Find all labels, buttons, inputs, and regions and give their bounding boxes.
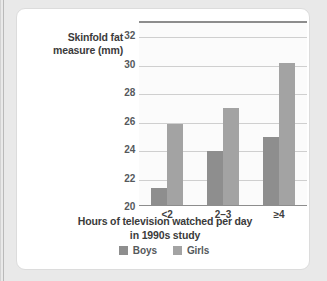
page-edge-rule (0, 0, 1, 281)
chart-legend: BoysGirls (17, 245, 311, 256)
bar-group (263, 23, 295, 205)
y-tick-label: 30 (124, 58, 135, 69)
legend-label-boys: Boys (133, 245, 157, 256)
figure-card: Skinfold fat measure (mm) 20222426283032… (16, 8, 310, 270)
x-axis-title-line1: Hours of television watched per day (37, 214, 293, 228)
bar-boys-2 (207, 151, 223, 205)
bar-girls-2 (223, 108, 239, 205)
legend-label-girls: Girls (187, 245, 209, 256)
y-tick-label: 24 (124, 144, 135, 155)
legend-swatch-boys (119, 246, 128, 255)
legend-item-girls: Girls (173, 245, 209, 256)
plot-wrapper: 20222426283032 <22–3≥4 (121, 21, 307, 206)
y-tick-label: 28 (124, 87, 135, 98)
y-axis-title-line2: measure (mm) (27, 44, 123, 57)
bar-group (207, 23, 239, 205)
y-tick-label: 22 (124, 172, 135, 183)
y-tick-label: 20 (124, 201, 135, 212)
bar-boys-1 (151, 188, 167, 205)
legend-swatch-girls (173, 246, 182, 255)
x-axis-title: Hours of television watched per day in 1… (37, 214, 293, 242)
bar-girls-3 (279, 63, 295, 205)
legend-item-boys: Boys (119, 245, 157, 256)
page-margin-rule (3, 0, 4, 281)
bar-girls-1 (167, 124, 183, 205)
bar-chart-figure: Skinfold fat measure (mm) 20222426283032… (17, 9, 311, 271)
plot-area (139, 21, 307, 206)
bar-boys-3 (263, 137, 279, 205)
y-tick-label: 26 (124, 115, 135, 126)
bar-group (151, 23, 183, 205)
y-tick-label: 32 (124, 30, 135, 41)
y-axis-title-line1: Skinfold fat (27, 31, 123, 44)
y-axis-title: Skinfold fat measure (mm) (27, 31, 123, 57)
x-axis-title-line2: in 1990s study (37, 228, 293, 242)
